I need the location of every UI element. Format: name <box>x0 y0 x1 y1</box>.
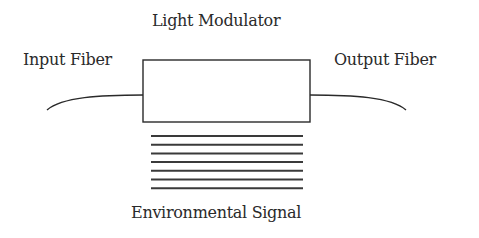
environmental-signal-lines <box>151 136 303 188</box>
light-modulator-box <box>143 60 310 122</box>
output-fiber-label: Output Fiber <box>334 50 436 69</box>
environmental-signal-label: Environmental Signal <box>131 203 301 222</box>
light-modulator-label: Light Modulator <box>152 11 280 30</box>
input-fiber <box>47 95 143 110</box>
input-fiber-label: Input Fiber <box>23 50 112 69</box>
output-fiber <box>310 95 406 110</box>
